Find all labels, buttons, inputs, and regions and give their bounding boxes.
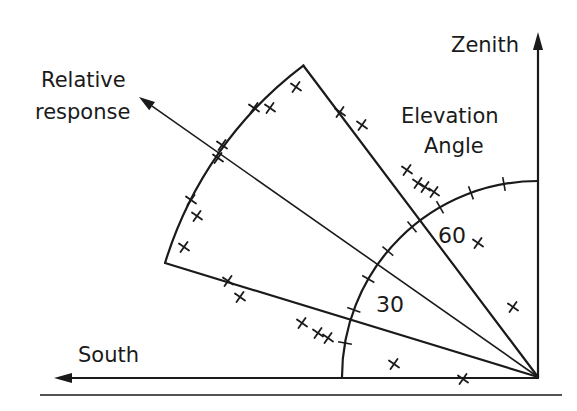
elevation-tick: [437, 201, 444, 213]
elevation-label-line2: Angle: [424, 134, 484, 158]
measurement-cross-icon: [265, 103, 275, 113]
measurement-cross-icon: [429, 187, 439, 197]
measurement-cross-icon: [249, 103, 259, 113]
measurement-cross-icon: [179, 242, 189, 252]
measurement-cross-icon: [291, 82, 301, 92]
south-label: South: [78, 343, 139, 367]
zenith-axis: [533, 32, 543, 378]
relative-label-line2: response: [35, 100, 130, 124]
zenith-label: Zenith: [451, 33, 519, 57]
south-arrow-icon: [54, 373, 72, 383]
sector-lower-edge: [165, 263, 538, 377]
measurement-cross-icon: [235, 292, 245, 302]
measurement-cross-icon: [402, 165, 412, 175]
measurement-cross-icon: [192, 211, 202, 221]
relative-label-line1: Relative: [41, 68, 126, 92]
relative-response-arrow-icon: [139, 97, 155, 110]
tick-label-30: 30: [376, 292, 404, 317]
measurement-cross-icon: [389, 359, 399, 369]
measurement-cross-icon: [323, 333, 333, 343]
measurement-cross-icon: [357, 120, 367, 130]
elevation-label-line1: Elevation: [401, 104, 499, 128]
measurement-cross-icon: [420, 182, 430, 192]
tick-label-60: 60: [438, 223, 466, 248]
polar-response-diagram: Zenith Elevation Angle Relative response…: [0, 0, 577, 411]
measurement-cross-icon: [297, 318, 307, 328]
measurement-cross-icon: [473, 238, 483, 248]
elevation-tick: [362, 276, 374, 283]
measurement-cross-icon: [413, 178, 423, 188]
zenith-arrow-icon: [533, 32, 543, 50]
measurement-cross-icon: [186, 195, 196, 205]
measurement-cross-icon: [313, 328, 323, 338]
measurement-cross-icon: [508, 302, 518, 312]
